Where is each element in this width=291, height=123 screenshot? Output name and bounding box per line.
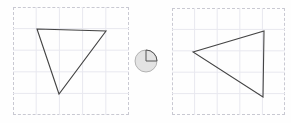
figure-canvas: Two dashed grid panels separated by a sm… (0, 0, 291, 123)
figure-description: Two dashed grid panels separated by a sm… (0, 0, 1, 1)
triangle-outline (193, 31, 264, 97)
rotation-indicator-icon (133, 48, 159, 74)
result-triangle (172, 8, 285, 115)
source-triangle (13, 7, 129, 115)
result-panel (172, 8, 285, 115)
triangle-outline (37, 29, 106, 94)
source-panel (13, 7, 129, 115)
